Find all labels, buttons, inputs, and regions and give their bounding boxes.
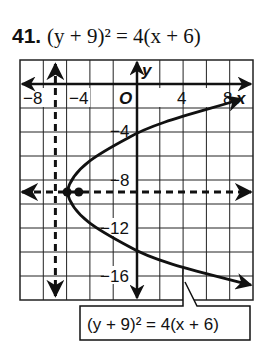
y-tick-label: −8	[110, 171, 129, 190]
origin-label: O	[119, 89, 132, 108]
x-tick-label: −8	[23, 89, 42, 108]
x-tick-label: 4	[177, 89, 186, 108]
x-tick-label: −4	[69, 89, 88, 108]
y-tick-label: −12	[100, 219, 129, 238]
y-tick-label: −4	[110, 122, 129, 141]
callout-label: (y + 9)² = 4(x + 6)	[87, 315, 219, 334]
y-tick-label: −16	[100, 267, 129, 286]
parabola-graph: −8 −4 O 4 8 x y −4 −8 −12 −16 (y + 9)² =…	[0, 0, 257, 346]
vertex-point	[63, 188, 72, 197]
x-tick-label: 8	[223, 89, 232, 108]
y-axis-label: y	[141, 61, 153, 80]
x-axis-label: x	[235, 89, 247, 108]
focus-point	[74, 188, 83, 197]
